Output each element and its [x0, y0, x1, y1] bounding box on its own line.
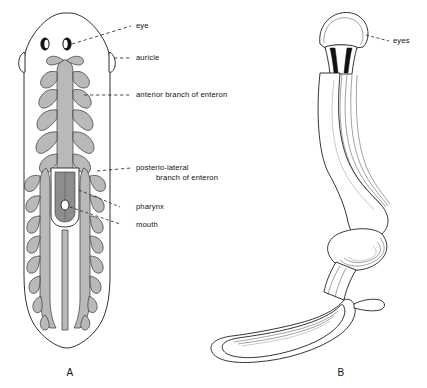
enteron-tail-midline: [62, 230, 68, 330]
mouth-opening: [61, 200, 69, 210]
enteron-anterior-trunk: [57, 60, 73, 170]
label-anterior-branch: anterior branch of enteron: [136, 90, 227, 99]
eye-left-highlight: [44, 40, 48, 49]
figure-a-planarian: A: [19, 13, 116, 378]
labels-figure-a: eye auricle anterior branch of enteron p…: [136, 21, 227, 229]
bipalium-body-upper: [318, 73, 388, 242]
label-auricle: auricle: [136, 53, 159, 62]
label-eye: eye: [136, 21, 149, 30]
auricle-left: [19, 52, 25, 72]
figure-a-caption: A: [66, 367, 73, 378]
figure-b-land-planarian: B: [211, 12, 390, 378]
eye-right-highlight: [64, 40, 68, 49]
illustration-plate: A eye auricle anterior branch of enteron…: [0, 0, 427, 388]
bipalium-bottom-loop-inner: [222, 305, 345, 358]
label-mouth: mouth: [136, 220, 158, 229]
label-posterio-lateral-line2: branch of enteron: [156, 173, 218, 182]
leader-lines-figure-b: eyes: [366, 35, 410, 45]
figure-b-caption: B: [337, 367, 344, 378]
leader-eyes: [366, 35, 389, 41]
bipalium-tail-tip: [354, 299, 385, 311]
label-posterio-lateral-line1: posterio-lateral: [136, 163, 189, 172]
label-eyes: eyes: [393, 36, 410, 45]
auricle-right: [109, 52, 115, 72]
bipalium-neck: [325, 45, 357, 74]
pharynx-group: [51, 168, 79, 227]
label-pharynx: pharynx: [136, 202, 164, 211]
